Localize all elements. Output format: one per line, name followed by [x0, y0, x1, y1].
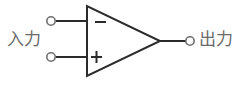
non-inverting-input-terminal-node — [47, 53, 55, 61]
opamp-diagram: 入力 出力 — [0, 0, 240, 92]
input-label: 入力 — [7, 31, 41, 48]
output-label: 出力 — [199, 31, 233, 48]
amplifier-triangle — [87, 6, 160, 76]
inverting-input-terminal-node — [47, 17, 55, 25]
output-terminal-node — [186, 37, 194, 45]
